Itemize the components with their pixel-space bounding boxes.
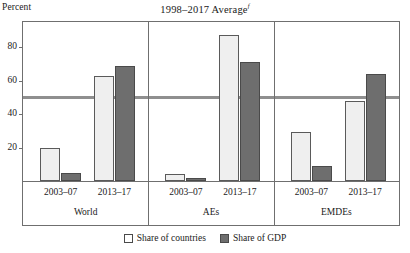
- bar-world-2013-17-share-of-gdp: [115, 66, 135, 181]
- plot-frame: 20406080: [22, 21, 400, 182]
- legend-label: Share of countries: [137, 233, 206, 243]
- group-divider: [274, 182, 275, 225]
- bar-aes-2003-07-share-of-countries: [165, 174, 185, 181]
- plot-area: 20406080: [23, 22, 399, 181]
- bar-emdes-2003-07-share-of-countries: [291, 132, 311, 181]
- y-axis-tick-label: 60: [1, 76, 17, 86]
- x-axis-group-label-emdes: EMDEs: [321, 207, 352, 217]
- x-axis-period-label: 2013–17: [98, 187, 131, 197]
- legend-swatch-light: [124, 234, 133, 243]
- x-axis-period-label: 2003–07: [169, 187, 202, 197]
- group-divider: [148, 22, 149, 181]
- chart-title-text: 1998–2017 Average: [160, 4, 247, 15]
- chart-title: 1998–2017 Averagef: [0, 2, 410, 15]
- bar-emdes-2003-07-share-of-gdp: [312, 166, 332, 181]
- y-axis-tick-label: 20: [1, 143, 17, 153]
- bar-aes-2003-07-share-of-gdp: [186, 178, 206, 181]
- x-axis-group-label-aes: AEs: [203, 207, 219, 217]
- y-axis-tick: [19, 148, 23, 149]
- x-axis-period-label: 2013–17: [223, 187, 256, 197]
- chart-title-footnote-marker: f: [248, 2, 250, 9]
- bar-emdes-2013-17-share-of-countries: [345, 101, 365, 181]
- x-axis-period-label: 2013–17: [349, 187, 382, 197]
- group-divider: [274, 22, 275, 181]
- group-divider: [148, 182, 149, 225]
- y-axis-tick: [19, 47, 23, 48]
- reference-line-50: [23, 96, 399, 99]
- bar-emdes-2013-17-share-of-gdp: [366, 74, 386, 181]
- y-axis-tick-label: 40: [1, 109, 17, 119]
- x-axis-group-label-world: World: [74, 207, 98, 217]
- y-axis-tick-label: 80: [1, 42, 17, 52]
- y-axis-tick: [19, 81, 23, 82]
- bar-world-2003-07-share-of-gdp: [61, 173, 81, 181]
- legend-entry: Share of countries: [124, 233, 206, 243]
- bar-world-2003-07-share-of-countries: [40, 148, 60, 181]
- bar-aes-2013-17-share-of-gdp: [240, 62, 260, 181]
- bar-aes-2013-17-share-of-countries: [219, 35, 239, 181]
- legend-entry: Share of GDP: [220, 233, 286, 243]
- y-axis-tick: [19, 114, 23, 115]
- legend-label: Share of GDP: [233, 233, 286, 243]
- x-axis-label-band: 2003–072013–17World2003–072013–17AEs2003…: [22, 182, 400, 226]
- x-axis-period-label: 2003–07: [44, 187, 77, 197]
- chart-legend: Share of countriesShare of GDP: [0, 233, 410, 243]
- x-axis-period-label: 2003–07: [295, 187, 328, 197]
- bar-world-2013-17-share-of-countries: [94, 76, 114, 181]
- legend-swatch-dark: [220, 234, 229, 243]
